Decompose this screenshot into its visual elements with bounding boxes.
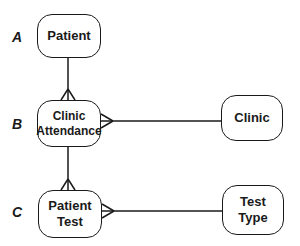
entity-label: Test Type bbox=[238, 194, 267, 226]
entity-patient[interactable]: Patient bbox=[37, 14, 101, 58]
level-label-a: A bbox=[12, 29, 22, 45]
entity-label: Clinic bbox=[234, 110, 269, 126]
entity-label: Patient Test bbox=[48, 198, 91, 230]
entity-label: Clinic Attendance bbox=[36, 109, 101, 139]
level-label-c: C bbox=[12, 204, 22, 220]
entity-patient-test[interactable]: Patient Test bbox=[38, 190, 102, 238]
entity-label: Patient bbox=[47, 28, 90, 44]
level-label-b: B bbox=[12, 116, 22, 132]
entity-test-type[interactable]: Test Type bbox=[222, 185, 284, 235]
entity-clinic[interactable]: Clinic bbox=[221, 95, 283, 141]
entity-clinic-attendance[interactable]: Clinic Attendance bbox=[37, 100, 101, 147]
